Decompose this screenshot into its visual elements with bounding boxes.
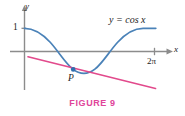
x-axis-arrow-icon [167, 49, 174, 55]
y-tick-label-one: 1 [13, 22, 18, 32]
figure-container: y x 1 2π y = cos x P FIGURE 9 [0, 0, 185, 116]
curve-equation-label: y = cos x [109, 14, 145, 25]
tangent-line [28, 57, 156, 89]
x-tick-label-twopi: 2π [147, 56, 156, 66]
x-axis-label: x [174, 44, 178, 54]
point-p-dot [71, 67, 76, 72]
figure-caption: FIGURE 9 [0, 98, 185, 108]
point-p-label: P [68, 73, 74, 83]
y-axis-label: y [25, 1, 29, 11]
